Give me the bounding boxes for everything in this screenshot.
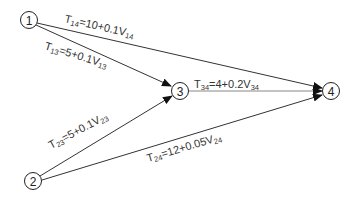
edge-label-2-4: T24=12+0.05V24 [145,130,223,165]
node-3: 3 [172,83,189,100]
svg-text:2: 2 [30,175,37,189]
node-1: 1 [21,12,38,29]
node-2: 2 [25,173,42,190]
node-4: 4 [323,83,340,100]
svg-text:4: 4 [328,85,335,99]
svg-text:3: 3 [177,85,184,99]
edge-label-3-4: T34=4+0.2V34 [194,78,259,92]
edge-label-2-3: T23=5+0.1V23 [46,110,110,153]
edge-2-3 [40,96,172,176]
svg-text:1: 1 [26,14,33,28]
network-diagram: 1 2 3 4 T14=10+0.1V14 T13=5+0.1V13 T34=4… [0,0,361,200]
edge-2-4 [42,95,322,180]
edge-label-1-3: T13=5+0.1V13 [43,39,109,71]
